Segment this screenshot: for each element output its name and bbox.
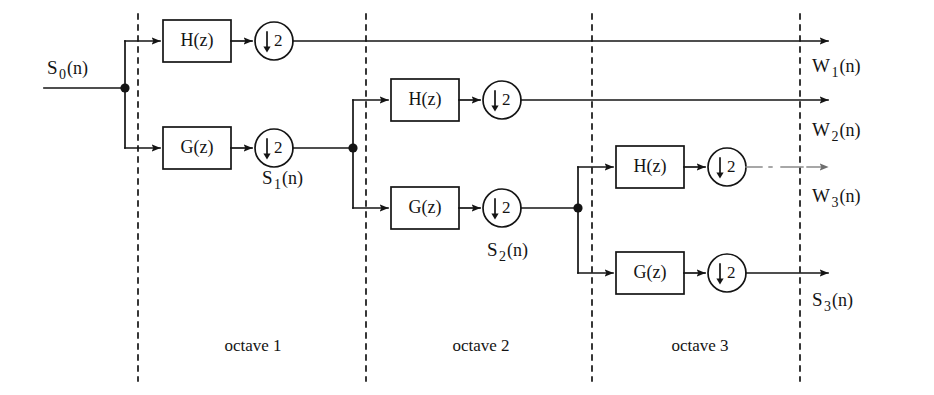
hz-box-label-octave-3: H(z) — [616, 157, 684, 175]
intermediate-signal-label-s2: S2(n) — [487, 240, 528, 264]
output-signal-label-s3: S3(n) — [812, 290, 853, 314]
output-signal-tail-w1: (n) — [839, 56, 860, 76]
input-signal-label-s0: S0(n) — [47, 58, 88, 82]
output-signal-tail-w3: (n) — [839, 186, 860, 206]
output-signal-base-w3: W — [812, 185, 830, 206]
output-signal-base-w1: W — [812, 55, 830, 76]
input-signal-base-s0: S — [47, 57, 58, 78]
octave-caption-3: octave 3 — [650, 337, 750, 354]
intermediate-signal-label-s1: S1(n) — [262, 168, 303, 192]
output-signal-base-w2: W — [812, 119, 830, 140]
octave-caption-2: octave 2 — [431, 337, 531, 354]
output-signal-sub-w2: 2 — [830, 129, 840, 144]
downsampler-factor-octave-1-lowpass: 2 — [274, 139, 296, 156]
split-node-1 — [120, 83, 129, 92]
output-signal-label-w1: W1(n) — [812, 56, 860, 80]
output-signal-tail-w2: (n) — [839, 120, 860, 140]
gz-box-label-octave-1: G(z) — [163, 138, 231, 156]
hz-box-label-octave-2: H(z) — [391, 90, 459, 108]
hz-box-label-octave-1: H(z) — [163, 31, 231, 49]
intermediate-signal-sub-s2: 2 — [498, 249, 508, 264]
downsampler-factor-octave-1-highpass: 2 — [274, 32, 296, 49]
input-branch-octave-3 — [578, 167, 613, 273]
output-signal-label-w2: W2(n) — [812, 120, 860, 144]
output-signal-sub-s3: 3 — [823, 299, 833, 314]
output-signal-sub-w1: 1 — [830, 65, 840, 80]
gz-box-label-octave-2: G(z) — [391, 198, 459, 216]
output-signal-tail-s3: (n) — [832, 290, 853, 310]
intermediate-signal-base-s2: S — [487, 239, 498, 260]
intermediate-signal-base-s1: S — [262, 167, 273, 188]
downsampler-factor-octave-2-lowpass: 2 — [502, 199, 524, 216]
intermediate-signal-sub-s1: 1 — [273, 177, 283, 192]
downsampler-factor-octave-2-highpass: 2 — [502, 91, 524, 108]
output-signal-label-w3: W3(n) — [812, 186, 860, 210]
octave-divider-lines — [138, 14, 800, 381]
input-signal-tail-s0: (n) — [67, 58, 88, 78]
downsampler-factor-octave-3-lowpass: 2 — [727, 264, 749, 281]
octave-caption-1: octave 1 — [203, 337, 303, 354]
split-node-2 — [348, 143, 357, 152]
filter-bank-diagram: H(z) G(z) 2 2 H(z) G(z) 2 2 H(z) G(z) 2 … — [0, 0, 934, 395]
split-node-3 — [573, 203, 582, 212]
output-signal-base-s3: S — [812, 289, 823, 310]
input-signal-sub-s0: 0 — [58, 67, 68, 82]
gz-box-label-octave-3: G(z) — [616, 263, 684, 281]
intermediate-signal-tail-s1: (n) — [282, 168, 303, 188]
intermediate-signal-tail-s2: (n) — [507, 240, 528, 260]
downsampler-factor-octave-3-highpass: 2 — [727, 158, 749, 175]
input-branch-octave-2 — [353, 100, 388, 208]
output-signal-sub-w3: 3 — [830, 195, 840, 210]
